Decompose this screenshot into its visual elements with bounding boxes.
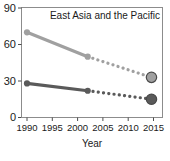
y-label-0: 0 [10,111,16,123]
data-series-layer [24,29,157,104]
data-point-lower-series-1 [85,88,91,94]
data-point-upper-series-0 [24,29,30,35]
y-label-60: 60 [4,38,16,50]
data-point-upper-series-2 [146,72,156,82]
x-label-1990: 1990 [16,122,37,133]
x-label-2015: 2015 [143,122,164,133]
x-tick-marks [27,118,154,122]
solid-line-upper-series [27,32,88,56]
chart-container: 0 30 60 90 1990 1995 2000 2005 2010 2015… [0,0,170,161]
x-label-2000: 2000 [67,122,88,133]
x-label-1995: 1995 [42,122,63,133]
series-lower-series [24,80,157,104]
chart-title: East Asia and the Pacific [50,10,160,21]
chart-plot-area: 0 30 60 90 1990 1995 2000 2005 2010 2015… [0,0,170,161]
y-tick-labels: 0 30 60 90 [4,2,16,123]
y-tick-marks [18,8,22,118]
data-point-lower-series-0 [24,80,30,86]
data-point-lower-series-2 [146,94,156,104]
dotted-line-lower-series [88,91,152,100]
series-upper-series [24,29,157,82]
solid-line-lower-series [27,83,88,90]
axis-frame [22,7,164,118]
dotted-line-upper-series [88,57,152,78]
x-axis-title: Year [82,138,103,149]
data-point-upper-series-1 [85,54,91,60]
x-label-2005: 2005 [92,122,113,133]
y-label-30: 30 [4,75,16,87]
x-tick-labels: 1990 1995 2000 2005 2010 2015 [16,122,164,133]
x-label-2010: 2010 [118,122,139,133]
y-label-90: 90 [4,2,16,14]
